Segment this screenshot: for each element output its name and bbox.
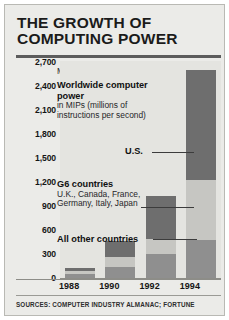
leader-line-g6 <box>141 207 194 208</box>
annotation-other-label: All other countries <box>57 234 138 245</box>
x-axis-tick: 1994 <box>180 281 200 291</box>
y-axis-tick: 900 <box>42 201 56 211</box>
bar-1988 <box>65 268 95 278</box>
chart-panel: THE GROWTH OF COMPUTING POWER Millions 2… <box>4 4 225 316</box>
x-axis-tick: 1990 <box>99 281 119 291</box>
x-axis-ticks: 1988199019921994 <box>49 281 210 295</box>
y-axis-tick: 2,700 <box>35 57 56 67</box>
bar-segment-g6 <box>146 239 176 254</box>
y-axis-tick: 1,500 <box>35 153 56 163</box>
bar-segment-other <box>186 240 216 278</box>
y-axis-tick: 1,200 <box>35 177 56 187</box>
bar-1994 <box>186 70 216 278</box>
source-note: SOURCES: COMPUTER INDUSTRY ALMANAC; FORT… <box>16 301 195 308</box>
y-axis-tick: 2,100 <box>35 105 56 115</box>
annotation-other: All other countries <box>57 234 138 245</box>
chart-title: THE GROWTH OF COMPUTING POWER <box>17 15 217 47</box>
chart-figure: THE GROWTH OF COMPUTING POWER Millions 2… <box>0 0 229 320</box>
y-axis-tick: 300 <box>42 249 56 259</box>
y-axis-tick: 1,800 <box>35 129 56 139</box>
bar-segment-other <box>105 267 135 278</box>
bar-segment-other <box>146 254 176 278</box>
annotation-g6: G6 countries U.K., Canada, France, Germa… <box>57 179 140 209</box>
bar-segment-us <box>146 196 176 238</box>
x-axis-tick: 1992 <box>140 281 160 291</box>
y-axis-tick: 600 <box>42 225 56 235</box>
annotation-us-label: U.S. <box>125 146 143 157</box>
annotation-worldwide-sub2: instructions per second) <box>57 111 148 121</box>
annotation-us: U.S. <box>125 146 143 157</box>
bar-segment-g6 <box>186 180 216 240</box>
annotation-g6-sub2: Germany, Italy, Japan <box>57 199 140 209</box>
y-axis-ticks: 2,7002,4002,1001,8001,5001,2009006003000 <box>16 61 56 279</box>
annotation-worldwide: Worldwide computer power in MIPs (millio… <box>57 80 148 120</box>
x-axis-tick: 1988 <box>59 281 79 291</box>
annotation-worldwide-head: Worldwide computer <box>57 80 148 91</box>
source-divider <box>16 295 221 296</box>
bar-1992 <box>146 196 176 278</box>
bar-1990 <box>105 241 135 278</box>
bar-segment-g6 <box>105 257 135 267</box>
leader-line-us <box>152 152 194 153</box>
title-line-2: COMPUTING POWER <box>17 31 217 47</box>
bar-segment-us <box>186 70 216 180</box>
x-axis-rule <box>16 279 221 280</box>
leader-line-other <box>153 239 197 240</box>
title-line-1: THE GROWTH OF <box>17 15 217 31</box>
y-axis-tick: 2,400 <box>35 81 56 91</box>
annotation-g6-head: G6 countries <box>57 179 140 190</box>
